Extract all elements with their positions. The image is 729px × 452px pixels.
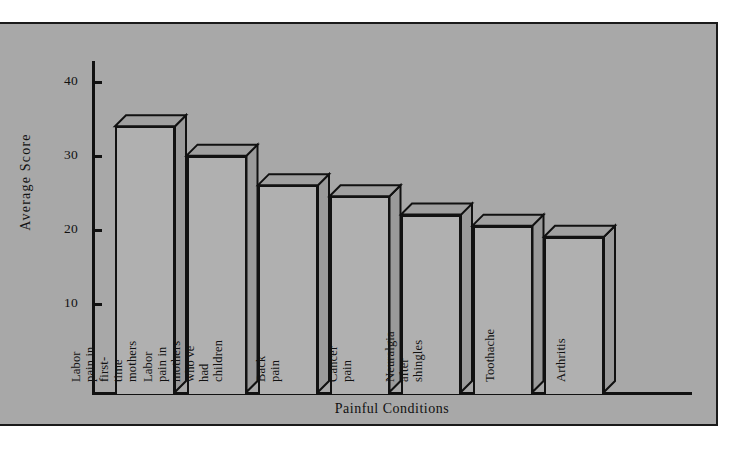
bar-side-face xyxy=(604,226,615,392)
bar-label: Labor pain in first-time mothers xyxy=(69,341,139,382)
y-tick-40 xyxy=(93,81,102,84)
bar-top-face xyxy=(115,115,186,126)
bar-chart-plot: 40 30 20 10 Average Score Painful Condit… xyxy=(0,24,718,428)
bar[interactable]: Cancer pain xyxy=(330,196,390,394)
y-tick-label-10: 10 xyxy=(64,296,78,310)
y-tick-30 xyxy=(93,155,102,158)
y-tick-label-20-wrap: 20 xyxy=(0,229,92,232)
y-axis-title: Average Score xyxy=(18,112,34,252)
bar[interactable]: Arthritis xyxy=(544,237,604,394)
y-tick-label-20: 20 xyxy=(64,222,78,236)
bar-label: Cancer pain xyxy=(326,346,354,382)
bar-label: Labor pain in mothers who've had childre… xyxy=(141,340,225,382)
bar-top-face xyxy=(330,185,401,196)
bar-top-face xyxy=(187,145,258,156)
y-tick-label-30: 30 xyxy=(64,148,78,162)
y-tick-label-40: 40 xyxy=(64,74,78,88)
bar-side-face xyxy=(533,215,544,392)
bar[interactable]: Neuralgia after shingles xyxy=(401,215,461,394)
bar[interactable]: Back pain xyxy=(258,185,318,394)
bar-top-face xyxy=(544,226,615,237)
bar-label: Back pain xyxy=(254,348,282,382)
figure-panel: 40 30 20 10 Average Score Painful Condit… xyxy=(0,22,718,426)
bar-top-face xyxy=(401,204,472,215)
bar-top-face xyxy=(258,174,329,185)
bar-label: Neuralgia after shingles xyxy=(383,331,425,382)
x-axis-title: Painful Conditions xyxy=(92,401,692,417)
bar[interactable]: Toothache xyxy=(473,226,533,394)
y-tick-label-40-wrap: 40 xyxy=(0,81,92,84)
bar-side-face xyxy=(461,204,472,392)
bar-label: Toothache xyxy=(483,329,497,382)
y-tick-label-10-wrap: 10 xyxy=(0,303,92,306)
y-tick-label-30-wrap: 30 xyxy=(0,155,92,158)
y-tick-20 xyxy=(93,229,102,232)
bar-top-face xyxy=(473,215,544,226)
bar[interactable]: Labor pain in mothers who've had childre… xyxy=(187,156,247,394)
y-tick-10 xyxy=(93,303,102,306)
bar-label: Arthritis xyxy=(554,338,568,382)
